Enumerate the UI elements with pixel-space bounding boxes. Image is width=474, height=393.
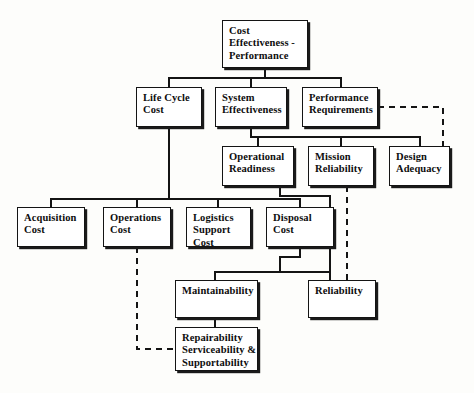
node-label-line: Life Cycle	[143, 92, 196, 104]
node-operations-cost[interactable]: Operations Cost	[103, 207, 171, 247]
node-label-line: Performance	[229, 50, 302, 62]
node-logistics-support-cost[interactable]: Logistics Support Cost	[186, 207, 251, 247]
node-label-line: Performance	[309, 92, 372, 104]
node-design-adequacy[interactable]: Design Adequacy	[389, 146, 450, 186]
node-maintainability[interactable]: Maintainability	[175, 280, 258, 318]
node-system-effectiveness[interactable]: System Effectiveness	[215, 87, 287, 127]
node-label-line: Reliability	[315, 163, 368, 175]
node-label-line: Operations	[110, 212, 165, 224]
node-label-line: Logistics	[193, 212, 245, 224]
node-label-line: Serviceability &	[182, 344, 252, 356]
node-label-line: Cost	[229, 25, 302, 37]
node-label-line: Effectiveness	[222, 104, 281, 116]
node-label-line: Support	[193, 224, 245, 236]
node-label-line: Mission	[315, 151, 368, 163]
node-label-line: System	[222, 92, 281, 104]
node-repairability-serviceability-supportability[interactable]: Repairability Serviceability & Supportab…	[175, 327, 258, 371]
node-label-line: Maintainability	[182, 285, 252, 297]
node-performance-requirements[interactable]: Performance Requirements	[302, 87, 378, 127]
node-label-line: Readiness	[229, 163, 288, 175]
node-label-line: Operational	[229, 151, 288, 163]
node-label-line: Acquisition	[24, 212, 79, 224]
node-life-cycle-cost[interactable]: Life Cycle Cost	[136, 87, 202, 127]
node-label-line: Adequacy	[396, 163, 444, 175]
node-label-line: Cost	[193, 237, 245, 249]
node-operational-readiness[interactable]: Operational Readiness	[222, 146, 294, 186]
node-label-line: Cost	[24, 224, 79, 236]
node-label-line: Disposal	[273, 212, 328, 224]
diagram-canvas: Cost Effectiveness - Performance Life Cy…	[0, 0, 474, 393]
node-label-line: Repairability	[182, 332, 252, 344]
node-label-line: Design	[396, 151, 444, 163]
edge-dashed-operations-cost-to-repairability	[137, 247, 175, 349]
node-label-line: Reliability	[315, 285, 370, 297]
node-reliability[interactable]: Reliability	[308, 280, 376, 318]
node-label-line: Cost	[273, 224, 328, 236]
node-label-line: Supportability	[182, 357, 252, 369]
node-label-line: Effectiveness -	[229, 37, 302, 49]
node-label-line: Cost	[110, 224, 165, 236]
node-mission-reliability[interactable]: Mission Reliability	[308, 146, 374, 186]
node-label-line: Cost	[143, 104, 196, 116]
node-label-line: Requirements	[309, 104, 372, 116]
node-acquisition-cost[interactable]: Acquisition Cost	[17, 207, 85, 247]
edge-dashed-perf-req-to-design-adequacy	[378, 107, 443, 146]
node-cost-effectiveness-performance[interactable]: Cost Effectiveness - Performance	[222, 20, 308, 68]
node-disposal-cost[interactable]: Disposal Cost	[266, 207, 334, 247]
